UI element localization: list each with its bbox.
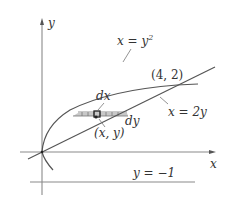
sample-point-dot — [94, 115, 97, 118]
y-axis-arrow-icon — [40, 18, 44, 25]
y-axis-label: y — [47, 16, 55, 30]
label-dy: dy — [125, 114, 140, 128]
label-dx: dx — [96, 89, 111, 103]
label-sample-point: (x, y) — [94, 126, 125, 140]
y-axis — [40, 18, 44, 195]
x-axis-label: x — [210, 157, 217, 171]
leader-dx — [98, 103, 104, 110]
leader-parabola — [123, 49, 131, 62]
label-y-minus-one: y = −1 — [132, 166, 175, 180]
x-axis-arrow-icon — [209, 150, 216, 154]
x-axis — [20, 150, 216, 154]
origin-point — [41, 151, 44, 154]
label-intersection: (4, 2) — [151, 68, 183, 82]
label-parabola: x = y2 — [117, 33, 153, 48]
label-line: x = 2y — [168, 105, 207, 119]
diagram-canvas: y x y = −1 x = y2 (4, 2) x = 2y dx — [0, 0, 242, 211]
leader-line — [160, 97, 168, 104]
